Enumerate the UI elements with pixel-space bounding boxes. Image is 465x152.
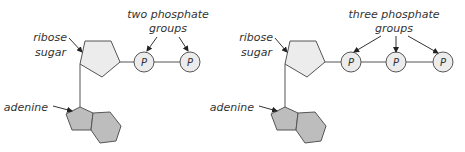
- adenine-arrow-icon: [53, 106, 72, 111]
- phosphate-arrow-icon: [147, 37, 157, 51]
- adenine-label: adenine: [4, 101, 48, 114]
- ribose-sugar-pentagon: [80, 41, 120, 77]
- phosphate-label-line1: two phosphate: [127, 8, 209, 21]
- ribose-label-line1: ribose: [33, 31, 67, 44]
- phosphate-group: P: [180, 52, 200, 72]
- atp-molecule: P P P ribose sugar adenine three phospha…: [210, 8, 453, 143]
- adenine-hexagon-ring: [296, 112, 326, 143]
- ribose-label-line2: sugar: [35, 46, 67, 59]
- phosphate-label-line2: groups: [149, 22, 187, 35]
- ribose-arrow-icon: [275, 38, 287, 52]
- adp-atp-diagram: P P ribose sugar adenine two phosphate g…: [0, 0, 465, 152]
- ribose-label-line1: ribose: [239, 31, 273, 44]
- phosphate-label: P: [440, 57, 447, 68]
- phosphate-group: P: [134, 52, 154, 72]
- phosphate-label-line2: groups: [375, 22, 413, 35]
- phosphate-group: P: [433, 52, 453, 72]
- ribose-arrow-icon: [69, 38, 82, 52]
- adenine-hexagon-ring: [91, 112, 121, 143]
- phosphate-label: P: [187, 57, 194, 68]
- ribose-sugar-pentagon: [285, 41, 325, 77]
- adp-molecule: P P ribose sugar adenine two phosphate g…: [4, 8, 209, 143]
- phosphate-label: P: [141, 57, 148, 68]
- phosphate-group: P: [341, 52, 361, 72]
- phosphate-arrow-icon: [179, 37, 188, 51]
- phosphate-label-line1: three phosphate: [348, 8, 439, 21]
- phosphate-arrow-icon: [354, 36, 381, 52]
- phosphate-label: P: [393, 57, 400, 68]
- adenine-label: adenine: [210, 101, 254, 114]
- adenine-arrow-icon: [259, 106, 277, 111]
- ribose-label-line2: sugar: [241, 46, 273, 59]
- phosphate-arrow-icon: [408, 36, 438, 53]
- phosphate-label: P: [348, 57, 355, 68]
- phosphate-group: P: [386, 52, 406, 72]
